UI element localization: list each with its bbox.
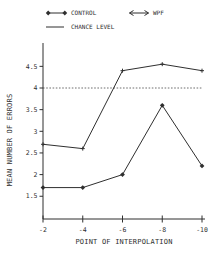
plot-area: 1.522.533.544.5-2-4-6-8-10 bbox=[0, 0, 218, 262]
x-tick-label: -6 bbox=[119, 226, 127, 234]
y-tick-label: 3 bbox=[34, 128, 38, 136]
control-marker bbox=[120, 172, 125, 177]
control-marker bbox=[80, 185, 85, 190]
y-tick-label: 2.5 bbox=[26, 149, 38, 157]
y-tick-label: 4.5 bbox=[26, 63, 38, 71]
x-tick-label: -10 bbox=[196, 226, 208, 234]
y-tick-label: 4 bbox=[34, 84, 38, 92]
wpf-line bbox=[43, 64, 202, 148]
y-tick-label: 3.5 bbox=[26, 106, 38, 114]
x-tick-label: -8 bbox=[158, 226, 166, 234]
y-tick-label: 2 bbox=[34, 171, 38, 179]
x-tick-label: -4 bbox=[79, 226, 87, 234]
y-tick-label: 1.5 bbox=[26, 192, 38, 200]
x-tick-label: -2 bbox=[39, 226, 47, 234]
figure: CONTROL WPF CHANCE LEVEL MEAN NUMBER OF … bbox=[0, 0, 218, 262]
